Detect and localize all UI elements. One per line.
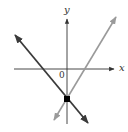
graph-canvas	[0, 0, 128, 132]
decreasing-line	[15, 35, 88, 123]
coordinate-graph: y x 0	[0, 0, 128, 132]
increasing-line	[54, 17, 116, 120]
x-axis-label: x	[119, 63, 125, 73]
y-axis-label: y	[64, 5, 70, 15]
intersection-point	[64, 96, 70, 102]
origin-label: 0	[59, 71, 65, 80]
